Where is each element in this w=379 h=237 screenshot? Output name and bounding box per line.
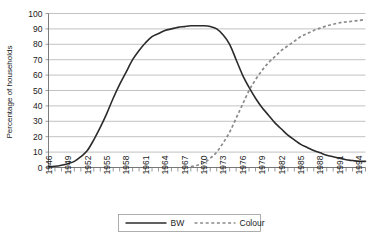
line-chart: 0102030405060708090100 19461949195219551… [0,0,379,237]
y-tick-label: 60 [33,70,43,80]
chart-legend: BWColour [119,215,265,232]
y-tick-label: 40 [33,101,43,111]
x-tick-label: 1994 [354,155,364,174]
x-tick-label: 1970 [199,155,209,174]
legend-label-bw: BW [171,218,185,228]
x-tick-label: 1982 [277,155,287,174]
x-tick-label: 1958 [121,155,131,174]
plot-background [0,0,379,237]
y-tick-label: 50 [33,86,43,96]
x-tick-label: 1991 [335,155,345,174]
legend-label-colour: Colour [240,218,265,228]
y-tick-label: 90 [33,24,43,34]
x-tick-labels: 1946194919521955195819611964196719701973… [44,155,365,174]
x-tick-label: 1955 [102,155,112,174]
x-tick-label: 1973 [218,155,228,174]
x-tick-label: 1976 [238,155,248,174]
y-axis-title: Percentage of households [5,46,14,139]
x-tick-label: 1979 [257,155,267,174]
x-tick-label: 1961 [141,155,151,174]
y-tick-label: 100 [28,9,42,19]
y-axis-title-text: Percentage of households [5,46,14,139]
y-tick-label: 80 [33,39,43,49]
y-tick-label: 30 [33,116,43,126]
y-tick-label: 10 [33,147,43,157]
chart-container: 0102030405060708090100 19461949195219551… [0,0,379,237]
y-tick-label: 70 [33,55,43,65]
x-tick-label: 1946 [44,155,54,174]
x-tick-label: 1964 [160,155,170,174]
x-tick-label: 1967 [180,155,190,174]
x-tick-label: 1985 [296,155,306,174]
x-tick-label: 1949 [63,155,73,174]
y-tick-label: 0 [38,163,43,173]
y-tick-label: 20 [33,132,43,142]
x-tick-label: 1988 [315,155,325,174]
x-tick-label: 1952 [83,155,93,174]
